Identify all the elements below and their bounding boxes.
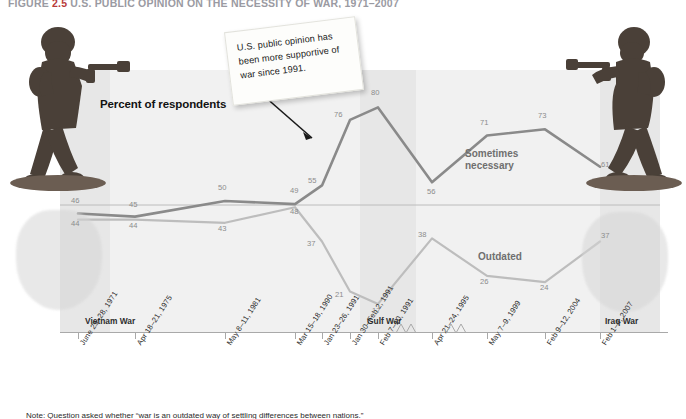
series-label-sometimes-necessary: Sometimes necessary xyxy=(465,148,518,172)
data-label-outdated-2: 43 xyxy=(218,224,226,233)
data-label-outdated-0: 44 xyxy=(71,219,79,228)
data-label-outdated-9: 24 xyxy=(540,283,548,292)
soldier-base-left xyxy=(10,175,106,191)
figure-caption: Note: Question asked whether “war is an … xyxy=(26,410,666,419)
data-label-sometimes-necessary-5: 76 xyxy=(334,110,342,119)
data-label-outdated-10: 37 xyxy=(601,231,609,240)
figure-number: 2.5 xyxy=(52,0,67,8)
data-label-sometimes-necessary-4: 55 xyxy=(308,176,316,185)
data-label-outdated-3: 48 xyxy=(290,207,298,216)
data-label-sometimes-necessary-7: 56 xyxy=(427,187,435,196)
data-label-sometimes-necessary-2: 50 xyxy=(218,183,226,192)
figure-container: FIGURE 2.5 U.S. PUBLIC OPINION ON THE NE… xyxy=(0,0,686,419)
figure-title: FIGURE 2.5 U.S. PUBLIC OPINION ON THE NE… xyxy=(8,0,668,8)
data-label-sometimes-necessary-3: 49 xyxy=(290,186,298,195)
data-label-outdated-8: 26 xyxy=(480,277,488,286)
soldier-base-right xyxy=(586,175,682,191)
data-label-sometimes-necessary-6: 80 xyxy=(371,88,379,97)
axis-break-2 xyxy=(446,324,466,333)
data-label-sometimes-necessary-9: 73 xyxy=(538,111,546,120)
soldier-figure-right xyxy=(560,18,680,216)
soldier-figure-left xyxy=(14,20,132,215)
series-label-outdated: Outdated xyxy=(478,251,522,263)
callout-arrow xyxy=(264,96,312,138)
soldier-shadow-left xyxy=(16,210,102,310)
data-label-outdated-6: 17 xyxy=(372,306,380,315)
callout-text: U.S. public opinion has been more suppor… xyxy=(236,27,350,82)
data-label-sometimes-necessary-8: 71 xyxy=(480,118,488,127)
series-label-line1: Sometimes xyxy=(465,148,518,159)
data-label-outdated-4: 37 xyxy=(307,239,315,248)
axis-break-marks xyxy=(0,322,686,336)
data-label-outdated-7: 38 xyxy=(418,230,426,239)
data-label-sometimes-necessary-0: 46 xyxy=(71,196,79,205)
data-label-sometimes-necessary-1: 45 xyxy=(129,200,137,209)
figure-label: FIGURE xyxy=(8,0,49,8)
soldier-shadow-right xyxy=(582,212,668,312)
series-line-sometimes-necessary xyxy=(78,107,600,216)
data-label-sometimes-necessary-10: 61 xyxy=(601,160,609,169)
series-label-line2: necessary xyxy=(465,160,514,171)
figure-title-text: U.S. PUBLIC OPINION ON THE NECESSITY OF … xyxy=(70,0,399,8)
axis-break-1 xyxy=(396,324,416,333)
data-label-outdated-5: 21 xyxy=(335,290,343,299)
data-label-outdated-1: 44 xyxy=(129,221,137,230)
